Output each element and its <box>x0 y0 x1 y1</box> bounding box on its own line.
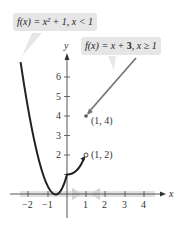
svg-text:4: 4 <box>56 110 61 121</box>
y-axis-label: y <box>63 40 69 51</box>
left-eq: = x² + 1, <box>31 16 72 27</box>
svg-text:6: 6 <box>56 71 61 82</box>
x-tick-labels: −2 −1 1 2 3 4 <box>22 199 146 210</box>
svg-text:3: 3 <box>56 130 61 141</box>
svg-text:2: 2 <box>102 199 107 210</box>
svg-text:3: 3 <box>122 199 127 210</box>
point-label-1-2: (1, 2) <box>91 149 113 161</box>
right-label-pointer <box>108 56 116 70</box>
right-eq: = x + <box>99 40 127 51</box>
left-cond: x < 1 <box>72 16 93 27</box>
open-point-1-2 <box>84 153 88 157</box>
y-tick-labels: 2 3 4 5 6 <box>56 71 61 160</box>
parabola-curve <box>21 62 85 194</box>
left-fn: f(x) <box>17 16 31 27</box>
linear-segment <box>88 58 136 113</box>
y-axis-arrow-icon <box>65 53 70 60</box>
svg-text:−1: −1 <box>42 199 53 210</box>
svg-text:4: 4 <box>141 199 146 210</box>
right-piece-label: f(x) = x + 3, x ≥ 1 <box>81 37 161 55</box>
svg-text:−2: −2 <box>22 199 33 210</box>
closed-point-1-4 <box>84 114 88 118</box>
right-fn: f(x) <box>85 40 99 51</box>
left-piece-label: f(x) = x² + 1, x < 1 <box>13 13 97 31</box>
x-axis-label: x <box>168 188 174 199</box>
svg-text:5: 5 <box>56 91 61 102</box>
left-label-pointer <box>22 33 42 56</box>
svg-text:1: 1 <box>83 199 88 210</box>
svg-text:2: 2 <box>56 149 61 160</box>
piecewise-function-graph: x y −2 −1 1 2 3 4 2 3 4 5 6 <box>0 0 180 225</box>
right-cond: , x ≥ 1 <box>132 40 157 51</box>
x-axis-arrow-icon <box>160 192 166 197</box>
point-label-1-4: (1, 4) <box>91 115 113 127</box>
